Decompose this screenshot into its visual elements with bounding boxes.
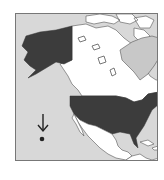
map-frame — [15, 13, 158, 161]
hawaii — [40, 137, 45, 142]
north-america-map — [16, 14, 158, 161]
